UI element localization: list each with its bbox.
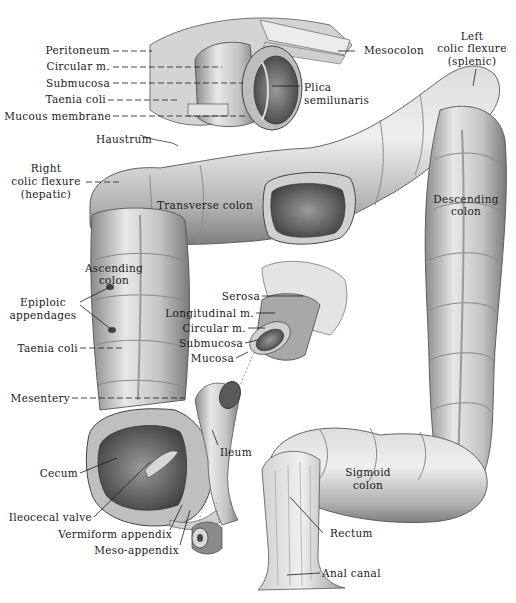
label-plica-line2: semilunaris [304,94,369,106]
label-longitudinal-muscle: Longitudinal m. [165,307,254,319]
label-rectum: Rectum [330,527,373,539]
descending-colon-shape [425,106,506,480]
label-ascending-line2: colon [99,274,129,286]
label-right-flexure-line3: (hepatic) [21,188,71,200]
label-sigmoid-line2: colon [353,479,383,491]
label-mesocolon: Mesocolon [364,44,424,56]
label-taenia-coli-mid: Taenia coli [17,342,78,354]
label-descending-line2: colon [451,205,481,217]
label-mucous-membrane: Mucous membrane [4,110,111,122]
label-mucosa: Mucosa [191,352,234,364]
label-transverse-colon: Transverse colon [157,199,253,211]
label-sigmoid-line1: Sigmoid [345,466,391,478]
label-ileum: Ileum [220,446,252,458]
label-taenia-coli-top: Taenia coli [45,93,106,105]
label-epiploic-line2: appendages [10,309,77,321]
label-plica-line1: Plica [304,81,331,93]
label-circular-muscle-top: Circular m. [46,60,110,72]
label-left-flexure-line3: (splenic) [448,55,497,67]
label-anal-canal: Anal canal [322,567,381,579]
label-right-flexure-line1: Right [31,162,61,174]
label-ascending-line1: Ascending [85,262,143,274]
label-circular-muscle-mid: Circular m. [182,322,246,334]
label-mesentery: Mesentery [11,392,70,404]
label-left-flexure-line2: colic flexure [437,42,506,54]
label-descending-line1: Descending [433,193,498,205]
label-haustrum: Haustrum [96,133,152,145]
label-right-flexure-line2: colic flexure [11,175,80,187]
label-epiploic-line1: Epiploic [20,296,66,308]
label-peritoneum: Peritoneum [46,44,110,56]
large-intestine-illustration: Peritoneum Circular m. Submucosa Taenia … [0,0,516,603]
label-submucosa-mid: Submucosa [179,337,243,349]
label-meso-appendix: Meso-appendix [94,544,179,556]
label-vermiform-appendix: Vermiform appendix [58,528,172,540]
label-submucosa-top: Submucosa [46,77,110,89]
label-ileocecal-valve: Ileocecal valve [9,511,92,523]
label-left-flexure-line1: Left [461,30,484,42]
label-serosa: Serosa [222,290,260,302]
label-cecum: Cecum [40,467,78,479]
